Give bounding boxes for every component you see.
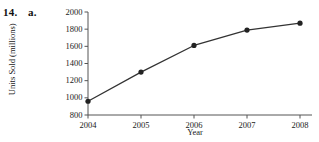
x-tick-label: 2004 bbox=[68, 121, 108, 130]
data-point bbox=[191, 43, 196, 48]
data-point bbox=[244, 27, 249, 32]
x-axis-ticks bbox=[88, 115, 300, 119]
x-tick-label: 2007 bbox=[227, 121, 267, 130]
y-axis-title: Units Sold (millions) bbox=[8, 3, 17, 115]
figure-container: 14. a. Units Sold (millions) Year 800100… bbox=[0, 0, 319, 142]
y-tick-label: 1800 bbox=[53, 25, 83, 34]
x-tick-label: 2008 bbox=[280, 121, 319, 130]
y-tick-label: 1200 bbox=[53, 76, 83, 85]
data-point bbox=[138, 69, 143, 74]
x-tick-label: 2006 bbox=[174, 121, 214, 130]
y-tick-label: 1600 bbox=[53, 42, 83, 51]
data-point-markers bbox=[85, 21, 302, 104]
data-point bbox=[297, 21, 302, 26]
x-tick-label: 2005 bbox=[121, 121, 161, 130]
y-tick-label: 2000 bbox=[53, 8, 83, 17]
line-chart: Units Sold (millions) Year 8001000120014… bbox=[0, 0, 319, 142]
y-tick-label: 800 bbox=[53, 111, 83, 120]
data-point bbox=[85, 99, 90, 104]
y-tick-label: 1400 bbox=[53, 59, 83, 68]
data-series-line bbox=[88, 23, 300, 101]
y-tick-label: 1000 bbox=[53, 93, 83, 102]
